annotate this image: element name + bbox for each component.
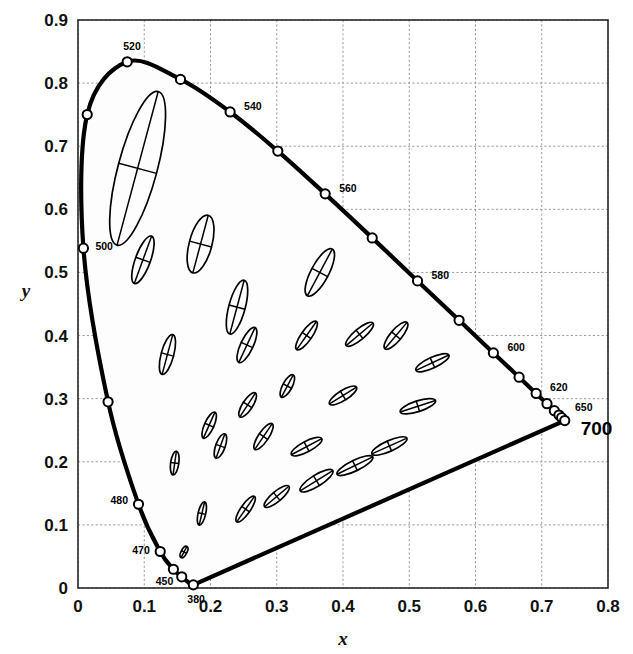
x-tick-label-0.1: 0.1 [132, 597, 156, 616]
wavelength-marker-510 [83, 110, 92, 119]
wavelength-marker-520 [123, 57, 132, 66]
y-tick-label-0.5: 0.5 [44, 263, 68, 282]
wavelength-marker-450 [177, 572, 186, 581]
wavelength-marker-530 [176, 75, 185, 84]
wavelength-marker-610 [514, 373, 523, 382]
wavelength-label-650: 650 [575, 401, 593, 413]
wavelength-marker-470 [156, 547, 165, 556]
wavelength-marker-490 [103, 397, 112, 406]
wavelength-marker-560 [321, 189, 330, 198]
gamut-fill [81, 60, 565, 585]
y-tick-label-0.2: 0.2 [44, 453, 68, 472]
y-tick-label-0.3: 0.3 [44, 390, 68, 409]
wavelength-label-500: 500 [95, 240, 113, 252]
x-tick-label-0: 0 [73, 597, 82, 616]
wavelength-marker-600 [489, 348, 498, 357]
wavelength-marker-480 [134, 500, 143, 509]
y-axis-title: y [20, 280, 31, 301]
chromaticity-diagram-figure: 520540560580600620650700500480470450380 … [0, 0, 633, 654]
y-tick-label-0.1: 0.1 [44, 516, 68, 535]
x-tick-label-0.8: 0.8 [596, 597, 620, 616]
x-tick-label-0.2: 0.2 [199, 597, 223, 616]
x-tick-label-0.6: 0.6 [464, 597, 488, 616]
wavelength-marker-580 [413, 276, 422, 285]
y-tick-label-0.4: 0.4 [44, 327, 68, 346]
wavelength-label-470: 470 [132, 544, 150, 556]
wavelength-marker-630 [542, 399, 551, 408]
x-tick-label-0.4: 0.4 [331, 597, 355, 616]
wavelength-marker-570 [368, 233, 377, 242]
wavelength-marker-700 [560, 416, 569, 425]
y-tick-label-0.7: 0.7 [44, 137, 68, 156]
x-axis-title: x [337, 628, 348, 649]
wavelength-label-700: 700 [581, 418, 613, 439]
wavelength-label-580: 580 [432, 269, 450, 281]
x-tick-label-0.5: 0.5 [397, 597, 421, 616]
wavelength-marker-500 [79, 244, 88, 253]
y-tick-label-0.9: 0.9 [44, 11, 68, 30]
wavelength-marker-590 [454, 316, 463, 325]
wavelength-marker-550 [273, 146, 282, 155]
wavelength-label-540: 540 [244, 100, 262, 112]
wavelength-label-600: 600 [507, 341, 525, 353]
wavelength-marker-380 [189, 580, 198, 589]
wavelength-label-480: 480 [110, 494, 128, 506]
wavelength-marker-460 [169, 565, 178, 574]
wavelength-marker-540 [226, 107, 235, 116]
wavelength-label-560: 560 [339, 182, 357, 194]
plot-canvas: 520540560580600620650700500480470450380 … [0, 0, 633, 654]
wavelength-label-520: 520 [123, 40, 141, 52]
y-tick-label-0.8: 0.8 [44, 74, 68, 93]
y-tick-label-0.6: 0.6 [44, 200, 68, 219]
wavelength-marker-620 [532, 389, 541, 398]
wavelength-label-450: 450 [156, 575, 174, 587]
y-tick-label-0: 0 [59, 579, 68, 598]
x-tick-label-0.7: 0.7 [530, 597, 554, 616]
wavelength-label-620: 620 [550, 381, 568, 393]
x-tick-label-0.3: 0.3 [265, 597, 289, 616]
gamut-interior [81, 60, 565, 585]
